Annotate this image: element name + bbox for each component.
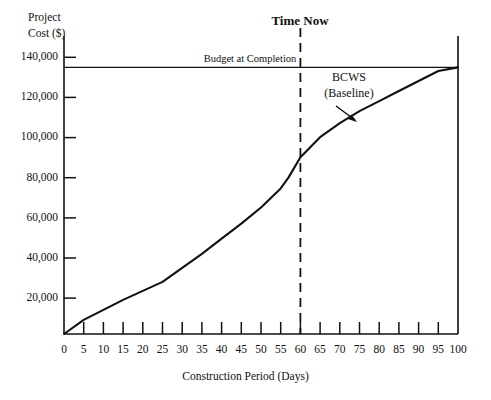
x-axis-title: Construction Period (Days)	[0, 371, 491, 383]
y-tick-label-120000: 120,000	[0, 91, 58, 103]
annotation-time-now: Time Now	[240, 14, 360, 27]
annotation-budget-at-completion: Budget at Completion	[196, 54, 304, 65]
y-axis-title-line1: Project	[28, 12, 61, 24]
y-tick-label-80000: 80,000	[0, 172, 58, 184]
y-axis-title-line2: Cost ($)	[28, 28, 65, 40]
y-tick-label-140000: 140,000	[0, 51, 58, 63]
y-tick-label-20000: 20,000	[0, 292, 58, 304]
x-tick-label-100: 100	[444, 344, 472, 356]
annotation-bcws-line1: BCWS	[306, 71, 392, 85]
y-tick-label-40000: 40,000	[0, 252, 58, 264]
annotation-bcws-line2: (Baseline)	[302, 87, 396, 101]
y-tick-label-60000: 60,000	[0, 212, 58, 224]
chart-figure: Project Cost ($) 140,000 120,000 100,000…	[0, 0, 491, 400]
y-tick-label-100000: 100,000	[0, 131, 58, 143]
